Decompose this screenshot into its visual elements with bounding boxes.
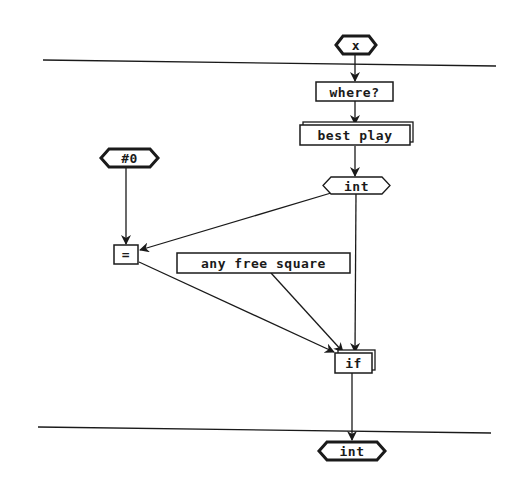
node-label: int (340, 444, 365, 459)
node-where[interactable]: where? (316, 82, 393, 101)
edges (126, 55, 356, 440)
node-label: x (352, 38, 360, 53)
node-label: where? (330, 85, 380, 100)
node-best-play[interactable]: best play (300, 122, 413, 145)
node-const-zero[interactable]: #0 (101, 149, 158, 167)
node-int-mid[interactable]: int (323, 177, 390, 194)
node-label: if (345, 356, 362, 371)
node-if[interactable]: if (335, 350, 375, 373)
edge-equals-to-if (139, 262, 334, 352)
node-label: best play (318, 128, 393, 143)
node-label: any free square (201, 256, 326, 271)
bottom-separator (38, 427, 491, 433)
node-label: int (344, 179, 369, 194)
node-input-x[interactable]: x (336, 36, 376, 54)
node-label: = (122, 247, 130, 262)
edge-int-to-if (355, 194, 356, 352)
node-equals[interactable]: = (114, 245, 138, 264)
node-label: #0 (121, 151, 138, 166)
node-output-int[interactable]: int (319, 442, 385, 460)
edge-int-to-equals (140, 193, 331, 250)
node-any-free-square[interactable]: any free square (177, 253, 350, 273)
dataflow-diagram: x where? best play int #0 = any free squ… (0, 0, 520, 484)
top-separator (43, 60, 496, 66)
